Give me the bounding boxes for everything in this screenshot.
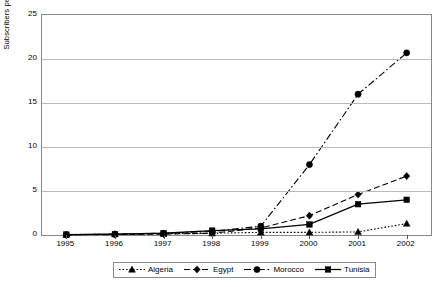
legend-label: Egypt [213,265,233,274]
x-axis-tick-label: 2002 [383,240,429,248]
legend-item-egypt: Egypt [184,265,233,274]
data-point [403,172,409,179]
gridline [42,147,431,148]
x-axis-tick-label: 1996 [91,240,137,248]
data-point [306,212,312,219]
legend-item-tunisia: Tunisia [315,265,370,274]
series-canvas [42,15,431,235]
y-axis-tick-labels: 0510152025 [6,0,37,250]
gridline [42,59,431,60]
y-axis-tick-label: 20 [9,54,37,62]
data-point [307,222,313,228]
x-axis-tick-label: 1997 [140,240,186,248]
x-axis-tick-label: 2000 [285,240,331,248]
x-axis-tick-label: 1998 [188,240,234,248]
data-point [355,91,361,97]
data-point [355,201,361,207]
data-point [404,50,410,56]
legend-key-tunisia [315,265,341,274]
data-point [403,220,410,226]
y-axis-tick-label: 0 [9,230,37,238]
data-point [209,228,215,234]
gridline [42,191,431,192]
legend-item-algeria: Algeria [119,265,173,274]
x-axis-tick-label: 1995 [42,240,88,248]
legend-item-morocco: Morocco [244,265,304,274]
legend-label: Tunisia [344,265,370,274]
legend-label: Algeria [148,265,173,274]
series-line [66,53,406,235]
data-point [404,197,410,203]
legend-label: Morocco [273,265,304,274]
line-chart: Subscribers per 100 Inhabitants 05101520… [0,0,446,287]
data-point [258,226,264,232]
series-morocco [63,50,410,238]
y-axis-tick-label: 25 [9,10,37,18]
legend-key-algeria [119,265,145,274]
y-axis-tick-label: 5 [9,186,37,194]
y-axis-tick-label: 15 [9,98,37,106]
y-axis-tick-label: 10 [9,142,37,150]
x-axis-tick-label: 2001 [334,240,380,248]
legend-key-morocco [244,265,270,274]
data-point [355,191,361,198]
legend: AlgeriaEgyptMoroccoTunisia [113,262,376,278]
legend-key-egypt [184,265,210,274]
data-point [306,162,312,168]
plot-area [41,14,432,236]
x-axis-tick-label: 1999 [237,240,283,248]
gridline [42,103,431,104]
